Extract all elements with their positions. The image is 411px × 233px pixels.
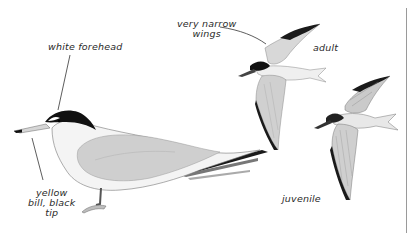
field-guide-plate: white forehead very narrow wings adult y… (0, 0, 411, 233)
label-white-forehead: white forehead (48, 42, 122, 52)
page-edge-divider (406, 8, 407, 233)
label-juvenile: juvenile (282, 194, 321, 204)
bill-leader-line (32, 138, 43, 180)
label-yellow-bill: yellow bill, black tip (28, 188, 75, 218)
flying-juvenile-tern-icon (314, 76, 398, 200)
label-very-narrow-wings: very narrow wings (177, 19, 236, 39)
forehead-leader-line (58, 55, 70, 110)
label-adult: adult (313, 43, 338, 53)
